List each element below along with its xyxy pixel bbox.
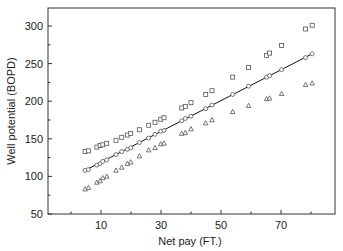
triangle-marker (114, 168, 119, 172)
square-marker (137, 128, 141, 132)
circle-marker (162, 129, 166, 133)
regression-line (85, 54, 312, 171)
triangle-marker (153, 145, 158, 149)
y-axis-title: Well potential (BOPD) (5, 57, 17, 164)
square-marker (105, 141, 109, 145)
square-marker (162, 116, 166, 120)
triangle-marker (210, 118, 215, 122)
circle-marker (231, 92, 235, 96)
circle-marker (101, 159, 105, 163)
chart-container: 10305070 50100150200250300 Net pay (FT.)… (0, 0, 343, 251)
triangle-marker (279, 91, 284, 95)
circle-marker (189, 114, 193, 118)
y-tick-label: 50 (31, 208, 43, 220)
triangle-marker (183, 130, 188, 134)
square-marker (114, 138, 118, 142)
square-marker (129, 132, 133, 136)
triangle-marker (267, 96, 272, 100)
square-marker (310, 23, 314, 27)
triangle-marker (189, 127, 194, 131)
square-marker (86, 149, 90, 153)
plot-border (48, 8, 335, 214)
circle-marker (147, 136, 151, 140)
x-tick-label: 10 (95, 219, 107, 231)
circle-marker (114, 153, 118, 157)
triangle-marker (104, 174, 109, 178)
triangle-marker (146, 148, 151, 152)
circle-marker (183, 116, 187, 120)
series-triangle (83, 81, 315, 191)
square-marker (280, 44, 284, 48)
series-square (83, 23, 314, 153)
circle-marker (247, 84, 251, 88)
x-tick-label: 30 (155, 219, 167, 231)
y-tick-label: 200 (25, 95, 43, 107)
square-marker (183, 104, 187, 108)
triangle-marker (128, 160, 133, 164)
square-marker (153, 120, 157, 124)
square-marker (247, 65, 251, 69)
triangle-marker (310, 81, 315, 85)
circle-marker (210, 103, 214, 107)
circle-marker (86, 168, 90, 172)
circle-marker (310, 52, 314, 56)
circle-marker (137, 141, 141, 145)
scatter-chart: 10305070 50100150200250300 Net pay (FT.)… (0, 0, 343, 251)
triangle-marker (162, 141, 167, 145)
y-tick-label: 250 (25, 58, 43, 70)
triangle-marker (86, 185, 91, 189)
plot-frame (48, 8, 335, 214)
circle-marker (204, 107, 208, 111)
triangle-marker (137, 154, 142, 158)
x-axis: 10305070 (71, 210, 311, 231)
circle-marker (280, 68, 284, 72)
square-marker (210, 89, 214, 93)
square-marker (304, 27, 308, 31)
square-marker (101, 143, 105, 147)
x-tick-label: 70 (275, 219, 287, 231)
triangle-marker (303, 82, 308, 86)
x-tick-label: 50 (215, 219, 227, 231)
x-axis-title: Net pay (FT.) (158, 235, 222, 247)
triangle-marker (203, 121, 208, 125)
circle-marker (268, 74, 272, 78)
data-series (83, 23, 315, 191)
square-marker (231, 75, 235, 79)
series-circle (83, 52, 314, 173)
triangle-marker (246, 103, 251, 107)
y-tick-label: 100 (25, 170, 43, 182)
square-marker (120, 135, 124, 139)
square-marker (268, 51, 272, 55)
square-marker (204, 92, 208, 96)
y-tick-label: 300 (25, 20, 43, 32)
triangle-marker (119, 165, 124, 169)
y-tick-label: 150 (25, 133, 43, 145)
circle-marker (129, 146, 133, 150)
circle-marker (153, 132, 157, 136)
triangle-marker (230, 109, 235, 113)
circle-marker (304, 56, 308, 60)
circle-marker (105, 158, 109, 162)
circle-marker (120, 150, 124, 154)
square-marker (189, 101, 193, 105)
square-marker (147, 123, 151, 127)
